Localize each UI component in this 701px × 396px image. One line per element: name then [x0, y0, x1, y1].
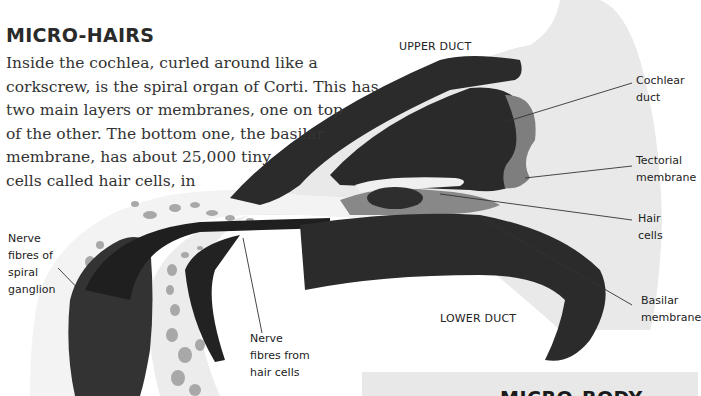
callout-hair-cells: Hair cells: [638, 210, 663, 244]
callout-nerve-fibres-spiral-ganglion: Nerve fibres of spiral ganglion: [8, 230, 56, 298]
body-paragraph: Inside the cochlea, curled around like a…: [6, 52, 366, 193]
lower-duct-label: LOWER DUCT: [440, 310, 516, 327]
section-heading: MICRO-HAIRS: [6, 24, 154, 46]
body-line: cells called hair cells, in: [6, 170, 366, 194]
body-line: of the other. The bottom one, the basila…: [6, 123, 366, 147]
callout-tectorial-membrane: Tectorial membrane: [636, 152, 696, 186]
callout-cochlear-duct: Cochlear duct: [636, 72, 685, 106]
body-line: membrane, has about 25,000 tiny: [6, 146, 366, 170]
next-section-box: MICRO-BODY: [362, 372, 698, 396]
body-line: corkscrew, is the spiral organ of Corti.…: [6, 76, 366, 100]
hair-cell-body: [367, 187, 423, 209]
next-section-title: MICRO-BODY: [500, 387, 643, 396]
callout-nerve-fibres-hair-cells: Nerve fibres from hair cells: [250, 330, 310, 381]
body-line: two main layers or membranes, one on top: [6, 99, 366, 123]
body-line: Inside the cochlea, curled around like a: [6, 52, 366, 76]
callout-basilar-membrane: Basilar membrane: [641, 292, 701, 326]
upper-duct-label: UPPER DUCT: [399, 38, 471, 55]
